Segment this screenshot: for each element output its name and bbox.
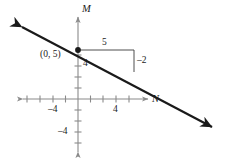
slope-rise-label: –2 — [137, 56, 147, 66]
y-intercept-point — [75, 47, 81, 53]
horizontal-axis-label: N — [152, 94, 159, 105]
horizontal-tick-label-4: 4 — [113, 105, 118, 115]
slope-run-label: 5 — [102, 38, 107, 48]
graph-canvas — [0, 0, 232, 164]
horizontal-tick-label-neg4: –4 — [48, 105, 58, 115]
point-label: (0, 5) — [40, 50, 61, 60]
vertical-axis-label: M — [82, 4, 91, 15]
vertical-tick-label-neg4: –4 — [58, 127, 68, 137]
graph-figure: M N –4 4 4 –4 (0, 5) 5 –2 — [0, 0, 232, 164]
vertical-tick-label-4: 4 — [83, 59, 88, 69]
